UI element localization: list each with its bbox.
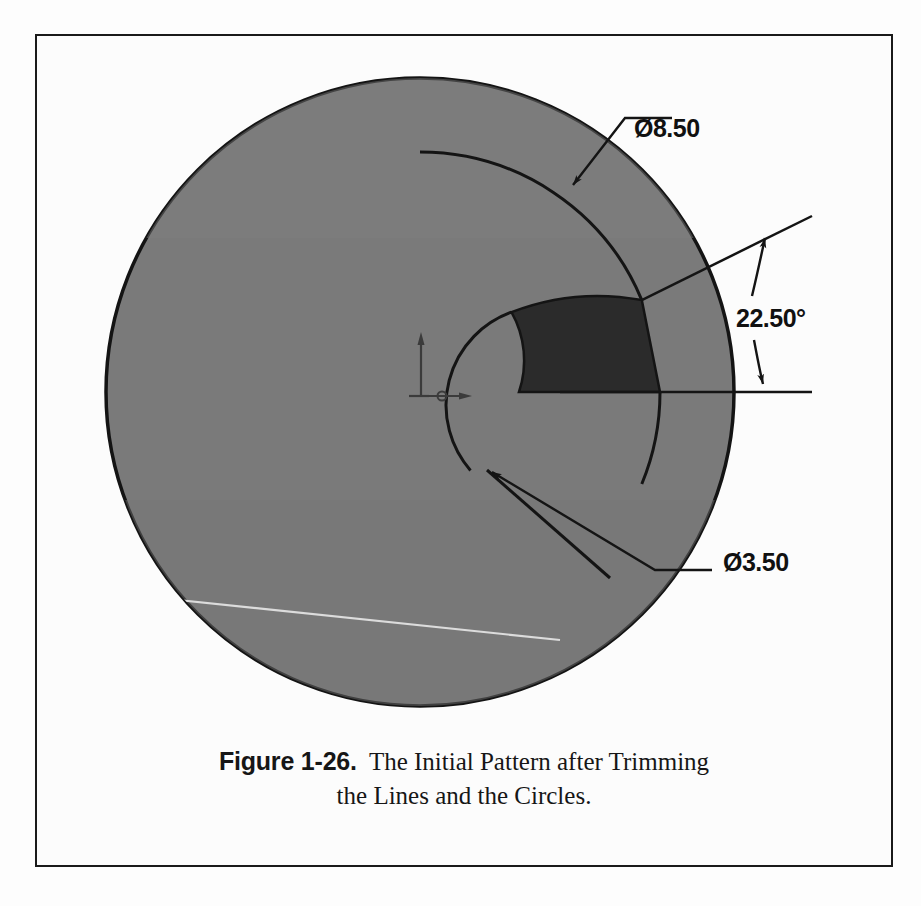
angle-dimension-upper-arc (752, 238, 765, 296)
figure-number-label: Figure 1-26. (219, 747, 357, 775)
trimmed-wedge-sector (512, 296, 661, 392)
figure-caption: Figure 1-26. The Initial Pattern after T… (60, 745, 868, 812)
dimension-label-outer-diameter: Ø8.50 (634, 114, 700, 142)
caption-spacer (357, 748, 369, 775)
caption-line-1: The Initial Pattern after Trimming (369, 748, 709, 775)
dimension-label-inner-diameter: Ø3.50 (723, 548, 789, 576)
angle-dimension-lower-arc (754, 340, 763, 384)
figure-page: Ø8.50 22.50° Ø3.50 Figure 1-26. The Init… (0, 0, 921, 906)
dimension-label-included-angle: 22.50° (736, 304, 806, 332)
caption-line-2: the Lines and the Circles. (337, 782, 592, 809)
